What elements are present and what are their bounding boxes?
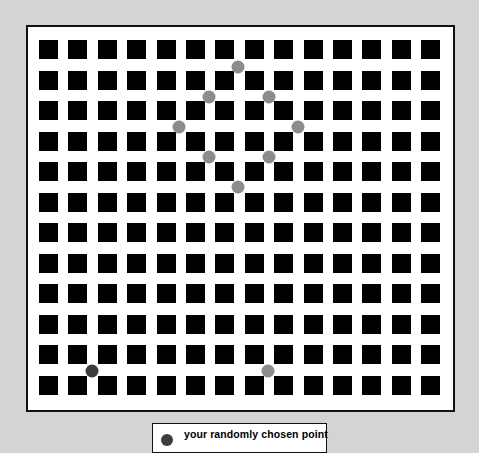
highlighted-point <box>203 91 216 104</box>
highlighted-point <box>173 121 186 134</box>
chosen-point-legend-icon <box>161 434 173 446</box>
highlighted-point <box>203 151 216 164</box>
highlighted-point <box>232 181 245 194</box>
highlighted-point <box>263 91 276 104</box>
highlighted-point <box>292 121 305 134</box>
highlighted-point <box>232 61 245 74</box>
legend-label: your randomly chosen point <box>184 428 328 440</box>
legend-box: your randomly chosen point <box>152 423 327 453</box>
highlighted-point <box>262 365 275 378</box>
chosen-point <box>86 365 99 378</box>
highlighted-point <box>263 151 276 164</box>
